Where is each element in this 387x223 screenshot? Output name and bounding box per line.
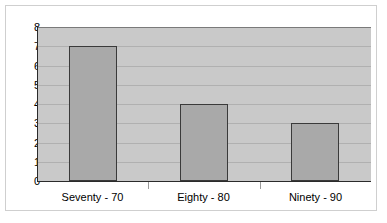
x-axis-category-label: Eighty - 80 (148, 191, 259, 204)
plot-top-edge (37, 27, 371, 28)
y-axis-line (37, 26, 38, 182)
x-axis-category-labels: Seventy - 70Eighty - 80Ninety - 90 (37, 191, 371, 207)
bar-1[interactable] (180, 104, 228, 181)
x-axis-line (37, 181, 371, 182)
chart-frame: 876543210 Seventy - 70Eighty - 80Ninety … (5, 5, 377, 211)
plot-area (37, 27, 371, 181)
x-axis-category-label: Seventy - 70 (37, 191, 148, 204)
category-tick (260, 182, 261, 189)
x-axis-category-label: Ninety - 90 (260, 191, 371, 204)
bar-0[interactable] (69, 46, 117, 181)
category-tick (148, 182, 149, 189)
bar-2[interactable] (291, 123, 339, 181)
